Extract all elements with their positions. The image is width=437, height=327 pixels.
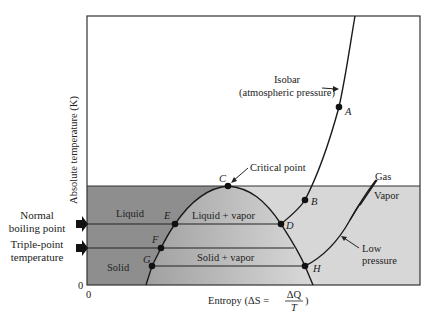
isobar-label-line2: (atmospheric pressure) [239, 87, 335, 99]
x-axis-fraction-numerator: ΔQ [287, 289, 302, 300]
region-gas: Gas [375, 171, 391, 182]
triple-point-label-line2: temperature [11, 251, 64, 263]
point-a [336, 104, 343, 111]
normal-boiling-label-line1: Normal [20, 209, 54, 221]
point-f [158, 245, 165, 252]
phase-diagram: A B C D E F G H Gas Vapor Liquid Liquid … [0, 0, 437, 327]
region-solid-vapor: Solid + vapor [197, 252, 255, 263]
region-liquid: Liquid [116, 208, 145, 219]
region-solid: Solid [107, 262, 130, 273]
label-g: G [143, 254, 151, 265]
label-b: B [311, 196, 318, 207]
y-origin-label: 0 [78, 280, 83, 291]
label-h: H [312, 263, 322, 274]
label-d: D [285, 220, 294, 231]
normal-boiling-arrow-icon [76, 216, 88, 232]
low-pressure-label-line1: Low [362, 243, 382, 254]
x-axis-label-prefix: Entropy (ΔS = [208, 295, 269, 307]
x-origin-label: 0 [86, 289, 91, 300]
point-b [302, 197, 309, 204]
critical-point-label: Critical point [250, 162, 306, 173]
triple-point-arrow-icon [76, 240, 88, 256]
point-e [172, 221, 179, 228]
label-f: F [151, 234, 159, 245]
region-vapor: Vapor [374, 190, 400, 201]
low-pressure-label-line2: pressure [362, 255, 397, 266]
label-a: A [344, 106, 352, 117]
x-axis-fraction-denominator: T [291, 302, 298, 313]
isobar-arrowhead-icon [333, 86, 339, 92]
region-liquid-vapor: Liquid + vapor [192, 210, 256, 221]
label-c: C [219, 173, 227, 184]
x-axis-label-suffix: ) [305, 295, 309, 307]
isobar-label-line1: Isobar [274, 74, 301, 85]
point-h [302, 263, 309, 270]
triple-point-label-line1: Triple-point [11, 238, 64, 250]
point-d [278, 221, 285, 228]
y-axis-label: Absolute temperature (K) [68, 96, 80, 204]
label-e: E [163, 210, 171, 221]
normal-boiling-label-line2: boiling point [9, 222, 66, 234]
